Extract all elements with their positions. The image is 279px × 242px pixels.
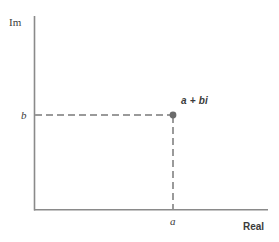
complex-plane-figure: Im Real b a a + bi: [0, 0, 279, 242]
data-point-label: a + bi: [181, 96, 208, 106]
x-axis-tick-label-a: a: [170, 216, 176, 227]
y-axis-label: Im: [9, 17, 21, 28]
x-axis-label: Real: [243, 222, 264, 232]
data-point-marker: [170, 112, 177, 119]
y-axis-tick-label-b: b: [21, 110, 27, 121]
plot-canvas: [0, 0, 279, 242]
